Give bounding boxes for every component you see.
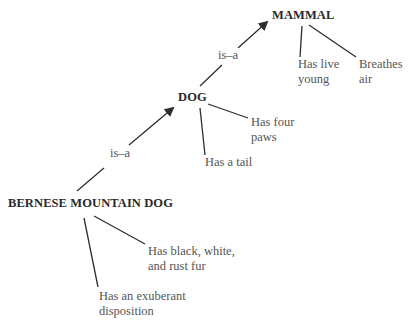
isa-arrow-bernese-dog-lower — [77, 168, 104, 191]
attribute-breathes-air: Breathes air — [359, 57, 403, 87]
isa-arrow-dog-mammal-lower — [200, 65, 222, 86]
attribute-has-four-paws: Has four paws — [251, 115, 294, 145]
node-mammal: MAMMAL — [272, 8, 334, 23]
attribute-line-1: Has four — [251, 115, 294, 130]
attribute-line-2: and rust fur — [148, 259, 235, 274]
link-mammal-live-young — [300, 26, 302, 57]
attribute-line-1: Has a tail — [205, 155, 252, 170]
link-bernese-fur — [94, 216, 145, 244]
attribute-has-a-tail: Has a tail — [205, 155, 252, 170]
link-dog-tail — [200, 108, 205, 155]
attribute-has-black-white-rust-fur: Has black, white, and rust fur — [148, 244, 235, 274]
attribute-line-1: Has live — [298, 57, 339, 72]
relation-label-dog-is-a-mammal: is–a — [217, 48, 239, 63]
link-dog-four-paws — [208, 104, 248, 118]
semantic-network-diagram: MAMMAL DOG BERNESE MOUNTAIN DOG is–a is–… — [0, 0, 416, 322]
attribute-has-exuberant-disposition: Has an exuberant disposition — [99, 289, 186, 319]
node-bernese-mountain-dog: BERNESE MOUNTAIN DOG — [8, 196, 173, 211]
link-bernese-disposition — [84, 218, 98, 287]
attribute-line-2: disposition — [99, 304, 186, 319]
attribute-line-2: young — [298, 72, 339, 87]
attribute-line-1: Has an exuberant — [99, 289, 186, 304]
attribute-line-2: air — [359, 72, 403, 87]
attribute-line-1: Has black, white, — [148, 244, 235, 259]
attribute-line-1: Breathes — [359, 57, 403, 72]
relation-label-bernese-is-a-dog: is–a — [109, 146, 131, 161]
attribute-has-live-young: Has live young — [298, 57, 339, 87]
link-mammal-breathes-air — [309, 25, 356, 57]
node-dog: DOG — [178, 90, 207, 105]
isa-arrow-dog-mammal-upper — [238, 22, 267, 48]
isa-arrow-bernese-dog-upper — [129, 108, 173, 145]
attribute-line-2: paws — [251, 130, 294, 145]
